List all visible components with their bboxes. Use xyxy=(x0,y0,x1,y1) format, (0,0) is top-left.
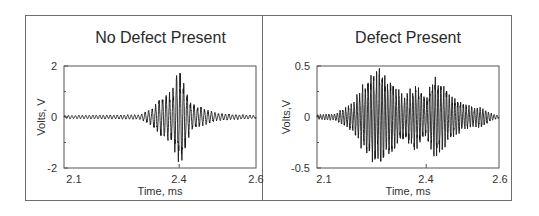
right-xtick-mid: 2.4 xyxy=(418,173,433,185)
right-ytick-top: 0.5 xyxy=(295,60,310,72)
right-ytick-zero: 0 xyxy=(304,111,310,123)
right-y-axis-label: Volts,V xyxy=(280,99,292,134)
right-waveform-chart: 0.5 0 -0.5 2.1 2.4 2.6 Time, ms Volts,V xyxy=(0,0,539,216)
right-xtick-start: 2.1 xyxy=(316,173,331,185)
right-x-axis-label: Time, ms xyxy=(386,185,431,197)
right-ytick-bottom: -0.5 xyxy=(291,162,310,174)
right-xtick-end: 2.6 xyxy=(492,173,507,185)
right-waveform-trace xyxy=(317,68,499,162)
